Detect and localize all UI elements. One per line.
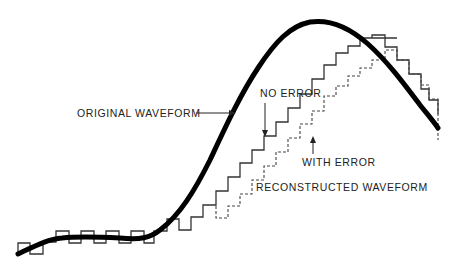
original-waveform-curve: [18, 21, 438, 254]
label-reconstructed-waveform: RECONSTRUCTED WAVEFORM: [256, 181, 428, 193]
label-original-waveform: ORIGINAL WAVEFORM: [77, 107, 201, 119]
reconstructed-staircase-no-error: [18, 35, 438, 254]
waveform-diagram: ORIGINAL WAVEFORM NO ERROR WITH ERROR RE…: [0, 0, 458, 271]
label-no-error: NO ERROR: [260, 87, 321, 99]
label-with-error: WITH ERROR: [302, 156, 376, 168]
arrow-with-error-head-icon: [310, 136, 316, 143]
